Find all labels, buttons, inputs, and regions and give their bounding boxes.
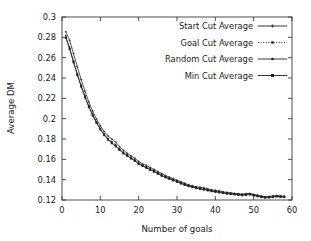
- legend-marker: [271, 41, 273, 43]
- data-point-marker: [134, 160, 136, 162]
- data-point-marker: [153, 171, 155, 173]
- data-point-marker: [142, 165, 144, 167]
- data-point-marker: [260, 196, 262, 198]
- y-tick-label: 0.24: [38, 73, 56, 83]
- data-point-marker: [180, 183, 182, 185]
- data-point-marker: [257, 195, 259, 197]
- data-point-marker: [107, 139, 109, 141]
- y-tick-label: 0.26: [38, 53, 56, 63]
- data-point-marker: [249, 194, 251, 196]
- x-tick-label: 50: [248, 205, 259, 215]
- data-point-marker: [119, 149, 121, 151]
- x-tick-label: 10: [95, 205, 106, 215]
- x-tick-label: 20: [133, 205, 144, 215]
- data-point-marker: [122, 152, 124, 154]
- y-tick-label: 0.28: [38, 32, 56, 42]
- legend-label-goal-cut-average: Goal Cut Average: [180, 38, 253, 48]
- x-tick-label: 60: [287, 205, 298, 215]
- data-point-marker: [280, 196, 282, 198]
- legend-label-min-cut-average: Min Cut Average: [185, 71, 253, 81]
- chart-figure: 0.120.140.160.180.20.220.240.260.280.3 0…: [0, 0, 311, 241]
- y-tick-label: 0.16: [38, 154, 56, 164]
- data-point-marker: [211, 190, 213, 192]
- data-point-marker: [188, 185, 190, 187]
- data-point-marker: [203, 189, 205, 191]
- data-point-marker: [80, 86, 82, 88]
- y-tick-label: 0.14: [38, 175, 56, 185]
- data-point-marker: [69, 39, 71, 41]
- data-point-marker: [72, 53, 74, 55]
- data-point-marker: [88, 106, 90, 108]
- plot-frame: [62, 17, 292, 200]
- data-point-marker: [230, 193, 232, 195]
- data-point-marker: [207, 189, 209, 191]
- data-point-marker: [149, 169, 151, 171]
- data-point-marker: [253, 195, 255, 197]
- y-tick-label: 0.12: [38, 195, 56, 205]
- data-point-marker: [214, 191, 216, 193]
- data-point-marker: [65, 37, 67, 39]
- legend-marker: [271, 58, 274, 61]
- data-point-marker: [268, 197, 270, 199]
- data-point-marker: [126, 155, 128, 157]
- y-tick-label: 0.18: [38, 134, 56, 144]
- data-point-marker: [264, 197, 266, 199]
- data-point-marker: [218, 191, 220, 193]
- data-point-marker: [115, 145, 117, 147]
- data-point-marker: [65, 31, 67, 33]
- data-point-marker: [245, 194, 247, 196]
- data-point-marker: [199, 188, 201, 190]
- data-point-marker: [73, 61, 75, 63]
- data-point-marker: [237, 194, 239, 196]
- data-point-marker: [84, 96, 86, 98]
- data-point-marker: [283, 196, 285, 198]
- data-point-marker: [272, 196, 274, 198]
- data-point-marker: [176, 181, 178, 183]
- data-point-marker: [80, 78, 82, 80]
- data-point-marker: [161, 175, 163, 177]
- data-point-marker: [76, 66, 78, 68]
- data-point-marker: [184, 184, 186, 186]
- data-point-marker: [99, 128, 101, 130]
- data-point-marker: [69, 48, 71, 50]
- data-point-marker: [157, 173, 159, 175]
- data-point-marker: [276, 196, 278, 198]
- legend-marker: [271, 74, 274, 77]
- data-point-marker: [84, 90, 86, 92]
- legend-label-random-cut-average: Random Cut Average: [165, 54, 253, 64]
- data-point-marker: [138, 163, 140, 165]
- data-point-marker: [195, 187, 197, 189]
- y-tick-label: 0.3: [43, 12, 56, 22]
- chart-canvas: 0.120.140.160.180.20.220.240.260.280.3 0…: [0, 0, 311, 241]
- data-point-marker: [96, 122, 98, 124]
- data-point-marker: [145, 167, 147, 169]
- x-axis-label: Number of goals: [141, 224, 213, 234]
- data-point-marker: [226, 193, 228, 195]
- x-tick-label: 40: [210, 205, 221, 215]
- data-point-marker: [172, 179, 174, 181]
- legend-marker: [271, 24, 274, 27]
- y-tick-label: 0.2: [43, 114, 56, 124]
- data-point-marker: [65, 35, 67, 37]
- data-point-marker: [76, 74, 78, 76]
- y-axis-label: Average DM: [6, 82, 16, 134]
- data-point-marker: [241, 194, 243, 196]
- data-point-marker: [191, 186, 193, 188]
- chart-legend: Start Cut AverageGoal Cut AverageRandom …: [165, 21, 287, 81]
- data-point-marker: [234, 194, 236, 196]
- x-tick-label: 30: [172, 205, 183, 215]
- data-point-marker: [111, 142, 113, 144]
- data-point-marker: [103, 134, 105, 136]
- data-point-marker: [130, 158, 132, 160]
- data-point-marker: [222, 192, 224, 194]
- data-point-marker: [92, 115, 94, 117]
- data-point-marker: [168, 178, 170, 180]
- legend-label-start-cut-average: Start Cut Average: [179, 21, 253, 31]
- data-point-marker: [165, 176, 167, 178]
- y-tick-label: 0.22: [38, 93, 56, 103]
- x-tick-label: 0: [59, 205, 64, 215]
